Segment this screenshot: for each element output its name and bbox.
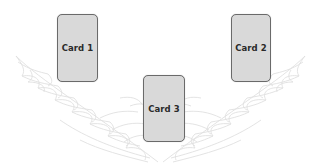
card-1-label: Card 1 — [62, 43, 94, 53]
card-1[interactable]: Card 1 — [57, 14, 98, 82]
card-2-label: Card 2 — [235, 43, 267, 53]
card-3[interactable]: Card 3 — [143, 75, 185, 142]
card-3-label: Card 3 — [148, 104, 180, 114]
card-2[interactable]: Card 2 — [231, 14, 271, 82]
